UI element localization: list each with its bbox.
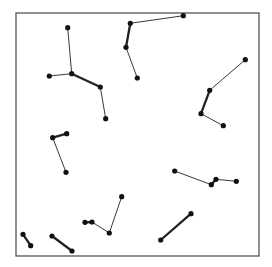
- cluster-top-center-node-1: [128, 21, 133, 26]
- diagram-frame: [16, 13, 259, 256]
- cluster-bottom-center-node-1: [89, 219, 94, 224]
- cluster-top-left-node-1: [69, 71, 74, 76]
- cluster-bottom-left-b-edge-thick: [52, 236, 72, 251]
- cluster-bottom-center-node-2: [107, 230, 112, 235]
- cluster-mid-right-node-3: [234, 179, 239, 184]
- cluster-bottom-left-b-node-0: [49, 233, 54, 238]
- cluster-top-center-edge-thick: [126, 23, 130, 47]
- cluster-top-left-node-4: [103, 116, 108, 121]
- cluster-bottom-right-edge-thick: [161, 214, 191, 240]
- cluster-mid-right-node-0: [172, 168, 177, 173]
- cluster-right-node-2: [198, 111, 203, 116]
- cluster-top-left-node-3: [98, 84, 103, 89]
- edges-layer: [23, 16, 245, 251]
- diagram-canvas: [0, 0, 272, 267]
- cluster-mid-left-node-2: [63, 170, 68, 175]
- cluster-mid-left-node-0: [50, 135, 55, 140]
- cluster-bottom-right-node-0: [188, 211, 193, 216]
- cluster-mid-left-edge-thin: [53, 138, 66, 173]
- cluster-top-left-edge-thin: [100, 87, 105, 119]
- cluster-bottom-center-node-3: [119, 194, 124, 199]
- cluster-bottom-center-node-0: [82, 220, 87, 225]
- cluster-top-center-edge-thin: [126, 47, 137, 78]
- cluster-mid-right-node-2: [213, 177, 218, 182]
- cluster-bottom-left-b-node-1: [69, 248, 74, 253]
- cluster-mid-left-node-1: [64, 131, 69, 136]
- cluster-top-left-edge-thin: [68, 28, 72, 74]
- cluster-top-center-edge-thin: [130, 16, 183, 24]
- cluster-bottom-left-a-node-1: [28, 243, 33, 248]
- cluster-top-left-edge-thin: [49, 74, 71, 76]
- cluster-bottom-center-edge-thin: [92, 222, 109, 233]
- cluster-top-center-node-2: [123, 45, 128, 50]
- cluster-top-center-node-0: [181, 13, 186, 18]
- cluster-bottom-center-edge-thin: [109, 197, 121, 233]
- cluster-mid-right-node-1: [209, 182, 214, 187]
- cluster-top-left-edge-thick: [72, 74, 101, 87]
- cluster-right-node-3: [221, 123, 226, 128]
- cluster-right-node-1: [207, 88, 212, 93]
- cluster-right-edge-thin: [210, 60, 246, 91]
- cluster-top-left-node-0: [65, 25, 70, 30]
- cluster-bottom-left-a-node-0: [20, 232, 25, 237]
- cluster-mid-right-edge-thin: [175, 171, 212, 185]
- cluster-mid-right-edge-thin: [216, 179, 236, 181]
- cluster-right-edge-thick: [201, 90, 210, 113]
- cluster-top-left-node-2: [47, 73, 52, 78]
- cluster-top-center-node-3: [135, 75, 140, 80]
- nodes-layer: [20, 13, 248, 253]
- cluster-right-node-0: [243, 57, 248, 62]
- cluster-right-edge-thin: [201, 114, 223, 126]
- cluster-bottom-right-node-1: [158, 237, 163, 242]
